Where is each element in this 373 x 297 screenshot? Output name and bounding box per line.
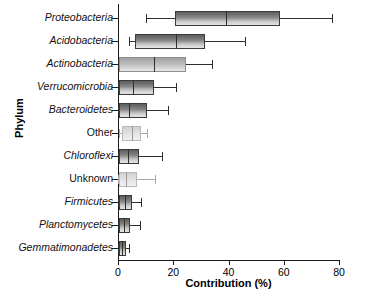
median-line bbox=[125, 195, 126, 210]
y-tick-label-chloroflexi: Chloroflexi bbox=[63, 149, 113, 161]
median-line bbox=[154, 57, 155, 72]
y-tick-label-planctomycetes: Planctomycetes bbox=[39, 218, 113, 230]
x-tick-label: 40 bbox=[214, 266, 244, 278]
x-tick-label: 0 bbox=[103, 266, 133, 278]
box-proteobacteria bbox=[175, 11, 280, 26]
median-line bbox=[129, 103, 130, 118]
whisker-cap-high bbox=[147, 129, 148, 138]
box-planctomycetes bbox=[119, 218, 130, 233]
plot-area: 020406080 bbox=[118, 4, 339, 260]
median-line bbox=[226, 11, 227, 26]
box-acidobacteria bbox=[135, 34, 205, 49]
box-chloroflexi bbox=[119, 149, 138, 164]
x-tick-label: 20 bbox=[158, 266, 188, 278]
y-axis-title: Phylum bbox=[13, 68, 25, 168]
median-line bbox=[176, 34, 177, 49]
whisker-cap-low bbox=[119, 129, 120, 138]
y-tick-label-acidobacteria: Acidobacteria bbox=[49, 34, 113, 46]
x-tick bbox=[118, 260, 119, 265]
y-tick-label-firmicutes: Firmicutes bbox=[65, 195, 113, 207]
median-line bbox=[128, 149, 129, 164]
x-tick bbox=[173, 260, 174, 265]
y-tick-label-gemmatimonadetes: Gemmatimonadetes bbox=[18, 241, 113, 253]
whisker-cap-low bbox=[129, 37, 130, 46]
x-tick-label: 60 bbox=[269, 266, 299, 278]
y-tick-label-unknown: Unknown bbox=[69, 172, 113, 184]
median-line bbox=[133, 80, 134, 95]
y-tick-label-verrucomicrobia: Verrucomicrobia bbox=[37, 80, 113, 92]
y-tick-label-proteobacteria: Proteobacteria bbox=[45, 11, 113, 23]
box-actinobacteria bbox=[119, 57, 185, 72]
box-unknown bbox=[119, 172, 137, 187]
whisker-cap-high bbox=[155, 175, 156, 184]
whisker-cap-high bbox=[140, 221, 141, 230]
x-tick bbox=[229, 260, 230, 265]
whisker-cap-high bbox=[129, 244, 130, 253]
x-axis-title: Contribution (%) bbox=[118, 277, 339, 289]
y-tick-label-bacteroidetes: Bacteroidetes bbox=[49, 103, 113, 115]
x-tick bbox=[339, 260, 340, 265]
y-tick-label-other: Other bbox=[87, 126, 113, 138]
median-line bbox=[132, 126, 133, 141]
whisker-cap-high bbox=[168, 106, 169, 115]
boxplot-chart: Phylum Contribution (%) 020406080 Proteo… bbox=[0, 0, 373, 297]
whisker-cap-high bbox=[332, 14, 333, 23]
x-tick-label: 80 bbox=[324, 266, 354, 278]
whisker-cap-high bbox=[245, 37, 246, 46]
whisker-cap-low bbox=[146, 14, 147, 23]
box-verrucomicrobia bbox=[119, 80, 154, 95]
median-line bbox=[124, 218, 125, 233]
whisker-cap-high bbox=[212, 60, 213, 69]
median-line bbox=[126, 172, 127, 187]
x-tick bbox=[284, 260, 285, 265]
whisker-cap-high bbox=[141, 198, 142, 207]
box-bacteroidetes bbox=[119, 103, 147, 118]
y-tick-label-actinobacteria: Actinobacteria bbox=[46, 57, 113, 69]
whisker-cap-high bbox=[176, 83, 177, 92]
whisker-cap-high bbox=[162, 152, 163, 161]
median-line bbox=[122, 241, 123, 256]
